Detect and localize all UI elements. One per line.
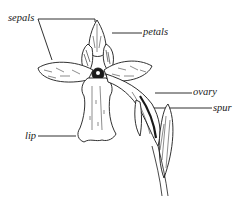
label-lip: lip (25, 131, 36, 142)
label-petals: petals (143, 27, 168, 38)
orchid-illustration (0, 0, 241, 201)
label-spur: spur (213, 103, 232, 114)
orchid-diagram: sepals petals ovary spur lip (0, 0, 241, 201)
label-ovary: ovary (193, 87, 217, 98)
spur (135, 100, 142, 136)
lip (78, 78, 116, 142)
label-sepals: sepals (8, 13, 34, 24)
